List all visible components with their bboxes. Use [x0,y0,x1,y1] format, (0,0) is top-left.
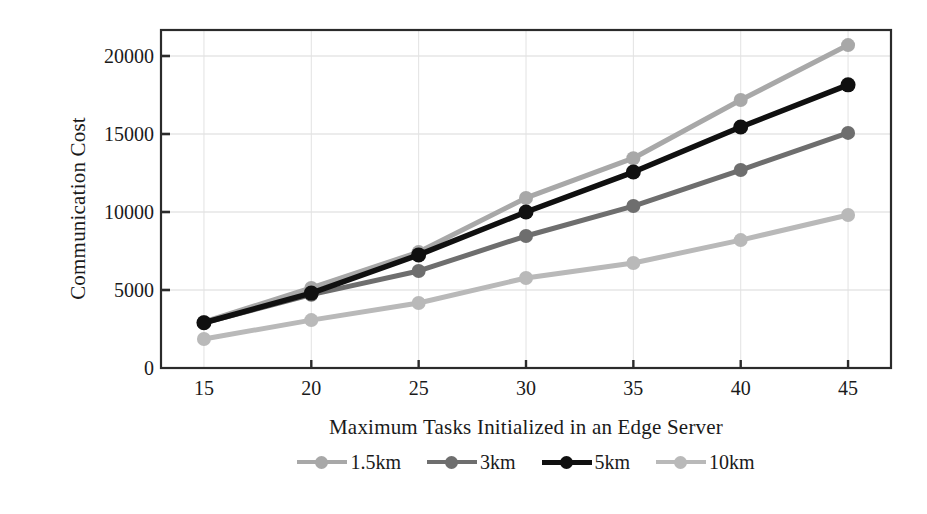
data-point-1.5km-45 [841,38,855,52]
x-axis-title: Maximum Tasks Initialized in an Edge Ser… [161,415,891,440]
x-tick-label-45: 45 [818,378,878,398]
data-point-3km-45 [841,126,855,140]
legend-swatch-10km [656,454,706,470]
legend-swatch-5km [542,454,592,470]
chart-legend: 1.5km3km5km10km [161,452,891,472]
data-point-1.5km-30 [519,191,533,205]
legend-item-5km[interactable]: 5km [542,452,631,472]
x-tick-label-30: 30 [496,378,556,398]
legend-marker-icon [445,456,458,469]
data-point-10km-35 [626,256,640,270]
legend-label: 10km [709,452,755,472]
y-tick-label-0: 0 [64,358,154,378]
data-point-1.5km-40 [734,93,748,107]
data-point-3km-25 [412,264,426,278]
data-point-10km-30 [519,271,533,285]
legend-label: 1.5km [350,452,401,472]
data-point-10km-15 [197,332,211,346]
data-point-10km-40 [734,233,748,247]
legend-marker-icon [315,456,328,469]
data-point-10km-20 [304,313,318,327]
legend-marker-icon [674,456,687,469]
x-tick-label-25: 25 [389,378,449,398]
legend-label: 5km [595,452,631,472]
x-tick-label-40: 40 [711,378,771,398]
x-tick-label-15: 15 [174,378,234,398]
legend-item-3km[interactable]: 3km [427,452,516,472]
data-point-5km-25 [411,247,426,262]
data-point-5km-30 [519,205,534,220]
data-point-1.5km-35 [626,151,640,165]
data-point-5km-15 [196,315,211,330]
data-point-5km-20 [304,286,319,301]
data-point-10km-45 [841,208,855,222]
legend-item-10km[interactable]: 10km [656,452,755,472]
data-point-3km-30 [519,229,533,243]
data-point-3km-35 [626,199,640,213]
x-tick-label-20: 20 [281,378,341,398]
y-axis-title: Communication Cost [66,59,91,359]
data-point-5km-40 [733,119,748,134]
data-point-3km-40 [734,163,748,177]
data-point-5km-45 [841,77,856,92]
legend-swatch-3km [427,454,477,470]
communication-cost-line-chart: 05000100001500020000 15202530354045 Comm… [0,0,927,514]
legend-item-1.5km[interactable]: 1.5km [297,452,401,472]
legend-label: 3km [480,452,516,472]
legend-marker-icon [560,456,573,469]
x-tick-label-35: 35 [603,378,663,398]
data-point-5km-35 [626,165,641,180]
data-point-10km-25 [412,296,426,310]
legend-swatch-1.5km [297,454,347,470]
